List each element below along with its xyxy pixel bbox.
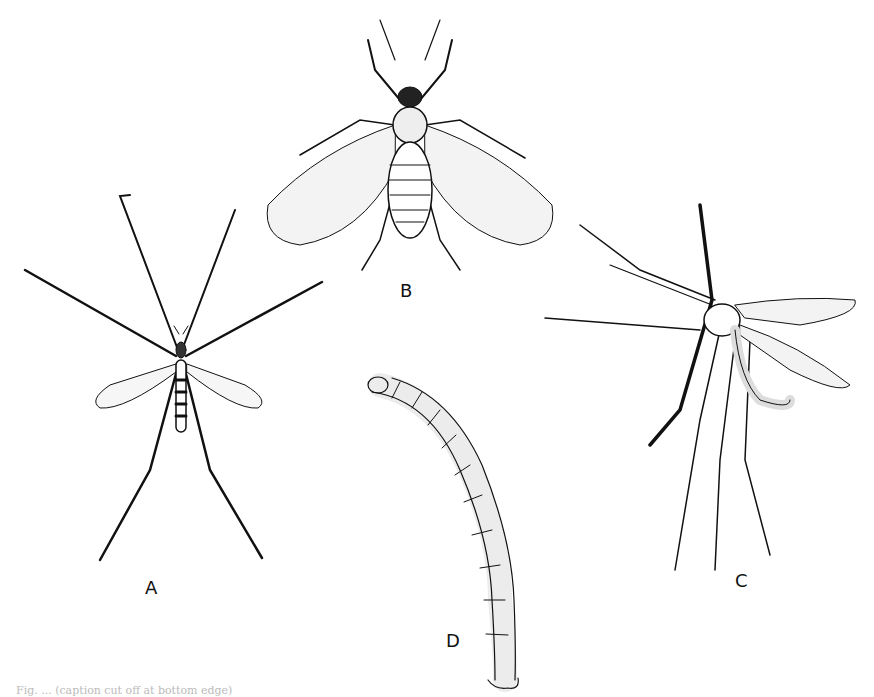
panel-label-a: A — [145, 577, 157, 598]
panel-a-crane-fly — [25, 195, 322, 560]
panel-label-c: C — [735, 570, 748, 591]
panel-c-mosquito — [545, 205, 855, 570]
panel-d-larva — [368, 377, 518, 688]
panel-label-b: B — [400, 280, 412, 301]
panel-label-d: D — [446, 630, 460, 651]
panel-b-fly — [267, 20, 553, 270]
figure-caption: Fig. ... (caption cut off at bottom edge… — [16, 684, 232, 697]
